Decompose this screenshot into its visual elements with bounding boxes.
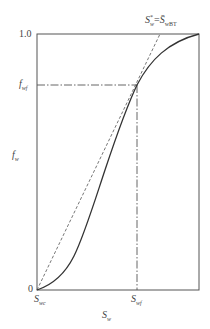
tangent-line xyxy=(37,34,160,290)
breakthrough-annotation: S*w=S̄wBT xyxy=(145,14,177,27)
x-tick-swf: Swf xyxy=(131,294,142,306)
x-axis-label: Sw xyxy=(102,310,111,322)
y-tick-0: 0 xyxy=(28,284,33,294)
y-tick-1: 1.0 xyxy=(19,29,32,39)
x-tick-swc: Swc xyxy=(34,294,46,306)
fractional-flow-diagram xyxy=(0,0,210,329)
fractional-flow-curve xyxy=(37,34,199,290)
y-axis-label: fw xyxy=(12,150,19,162)
y-tick-fwf: fwf xyxy=(19,79,27,91)
plot-frame xyxy=(37,34,199,290)
